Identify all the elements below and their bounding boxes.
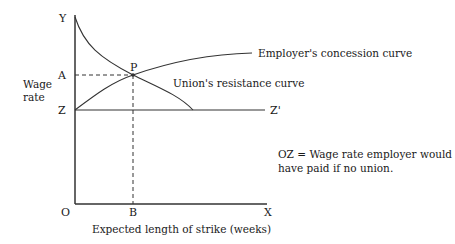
note-line2: have paid if no union. (278, 162, 393, 174)
point-z-label: Z (58, 104, 66, 117)
point-b-label: B (129, 206, 137, 219)
y-axis-letter: Y (58, 12, 67, 25)
point-zprime-label: Z' (270, 104, 281, 117)
point-p-label: P (130, 61, 138, 74)
y-axis-title-line1: Wage (23, 78, 52, 90)
employer-curve-label: Employer's concession curve (258, 47, 412, 59)
x-axis-title: Expected length of strike (weeks) (92, 223, 271, 235)
point-a-label: A (57, 69, 67, 82)
origin-label: O (61, 206, 70, 219)
note-line1: OZ = Wage rate employer would (278, 148, 452, 160)
union-curve-label: Union's resistance curve (173, 77, 305, 89)
bargaining-diagram: Y A Z P Z' O B X Wage rate Employer's co… (0, 0, 455, 244)
y-axis-title-line2: rate (23, 91, 45, 103)
x-axis-letter: X (264, 206, 272, 219)
